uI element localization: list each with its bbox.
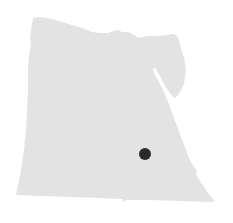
egypt-shape[interactable] [16,17,215,202]
map-container [0,0,233,223]
country-map [0,0,233,223]
location-marker[interactable] [139,148,151,160]
